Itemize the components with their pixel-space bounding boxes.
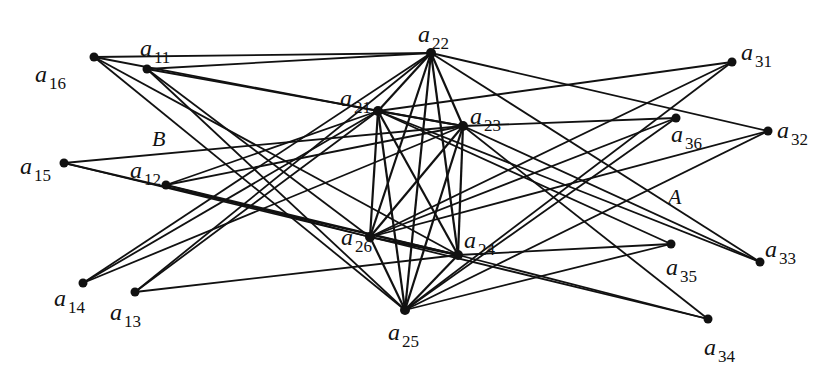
edge-a31-a21 xyxy=(378,62,732,111)
node-label-a13: a13 xyxy=(110,299,141,331)
region-label-b: B xyxy=(152,126,165,151)
node-a16 xyxy=(90,53,99,62)
node-a34 xyxy=(704,315,713,324)
node-a14 xyxy=(79,279,88,288)
node-label-a11: a11 xyxy=(140,35,170,67)
edge-a14-a23 xyxy=(83,126,463,283)
node-label-a26: a26 xyxy=(341,224,372,256)
edge-a23-a24 xyxy=(458,126,463,255)
edge-a14-a21 xyxy=(83,111,378,283)
node-a24 xyxy=(453,250,463,260)
edge-a33-a21 xyxy=(378,111,760,262)
node-a12 xyxy=(162,181,171,190)
node-a31 xyxy=(728,58,737,67)
node-label-a14: a14 xyxy=(54,285,86,317)
node-label-a21: a21 xyxy=(340,85,371,117)
node-a15 xyxy=(60,159,69,168)
edge-a33-a23 xyxy=(463,126,760,262)
node-a33 xyxy=(756,258,765,267)
node-label-a23: a23 xyxy=(470,103,501,135)
edge-a13-a21 xyxy=(135,111,378,292)
node-a21 xyxy=(373,106,383,116)
node-label-a33: a33 xyxy=(765,236,796,268)
node-label-a12: a12 xyxy=(130,157,161,189)
node-label-a16: a16 xyxy=(35,61,66,93)
node-label-a22: a22 xyxy=(418,21,449,53)
node-a11 xyxy=(143,65,152,74)
node-a32 xyxy=(764,127,773,136)
graph-svg: a16a11a15a12a14a13a22a21a23a26a24a25a31a… xyxy=(0,0,829,369)
nodes-layer xyxy=(60,48,773,324)
node-a13 xyxy=(131,288,140,297)
node-label-a25: a25 xyxy=(388,319,419,351)
node-label-a34: a34 xyxy=(704,334,736,366)
node-label-a32: a32 xyxy=(777,117,808,149)
edge-a16-a25 xyxy=(94,57,405,310)
node-a25 xyxy=(400,305,410,315)
node-label-a31: a31 xyxy=(741,39,772,71)
node-label-a36: a36 xyxy=(671,121,702,153)
node-a23 xyxy=(458,121,468,131)
node-a35 xyxy=(667,240,676,249)
node-label-a35: a35 xyxy=(666,254,697,286)
node-label-a15: a15 xyxy=(20,153,51,185)
edge-a32-a26 xyxy=(370,131,768,237)
region-label-a: A xyxy=(666,184,682,209)
graph-diagram: a16a11a15a12a14a13a22a21a23a26a24a25a31a… xyxy=(0,0,829,369)
